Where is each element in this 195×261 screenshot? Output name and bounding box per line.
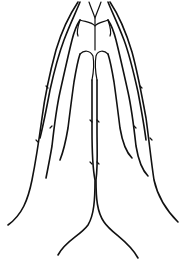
second-tip-center — [80, 20, 108, 26]
left-hand-outer — [8, 2, 78, 225]
palm-seam-left — [58, 80, 95, 255]
front-tip-right — [95, 51, 108, 80]
front-finger-left — [60, 54, 80, 160]
praying-hands-illustration — [0, 0, 195, 261]
praying-hands-drawing — [0, 0, 195, 261]
top-tip-center — [89, 2, 101, 18]
top-finger-right — [108, 2, 146, 140]
front-finger-right — [108, 54, 132, 158]
right-hand-outer — [110, 2, 178, 222]
top-finger-left — [40, 2, 80, 138]
front-tip-left — [80, 51, 94, 80]
